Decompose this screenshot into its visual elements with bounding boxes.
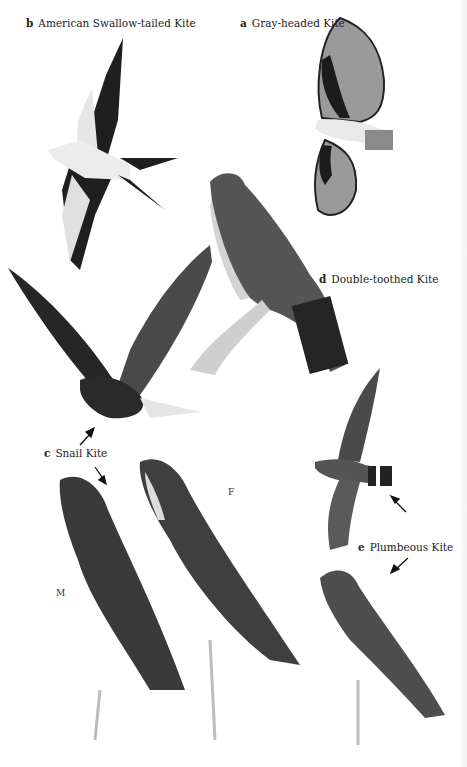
female-label: F [228, 487, 234, 497]
gray-headed-kite-illustration [315, 18, 393, 215]
species-label-c: cSnail Kite [44, 447, 107, 459]
swallow-tailed-kite-illustration [48, 38, 178, 270]
bird-illustrations [0, 0, 467, 767]
plumbeous-kite-flying-illustration [315, 368, 392, 550]
species-label-b: bAmerican Swallow-tailed Kite [26, 17, 196, 29]
illustration-plate: bAmerican Swallow-tailed Kite aGray-head… [0, 0, 467, 767]
snail-kite-perched-illustration [60, 459, 300, 740]
species-label-d: dDouble-toothed Kite [319, 273, 438, 285]
species-label-e: ePlumbeous Kite [358, 541, 453, 553]
plumbeous-kite-perched-illustration [320, 571, 445, 745]
page-edge-shadow [459, 0, 467, 767]
snail-kite-flying-illustration [8, 245, 212, 418]
species-label-a: aGray-headed Kite [240, 17, 345, 29]
male-label: M [56, 588, 65, 598]
